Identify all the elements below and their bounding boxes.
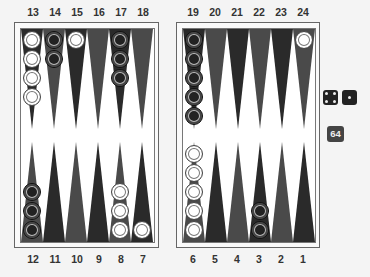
white-checker[interactable] [185, 183, 203, 201]
point-label-24: 24 [292, 6, 314, 18]
checker-stack-13 [21, 31, 43, 107]
white-checker[interactable] [23, 69, 41, 87]
black-checker[interactable] [111, 31, 129, 49]
dice[interactable] [323, 90, 357, 105]
point-label-10: 10 [66, 253, 88, 265]
point-label-4: 4 [226, 253, 248, 265]
white-checker[interactable] [111, 183, 129, 201]
checker-stack-12 [21, 183, 43, 240]
point-18[interactable] [131, 29, 153, 129]
white-checker[interactable] [23, 31, 41, 49]
point-label-18: 18 [132, 6, 154, 18]
point-11[interactable] [43, 142, 65, 242]
point-9[interactable] [87, 142, 109, 242]
point-label-1: 1 [292, 253, 314, 265]
checker-stack-8 [109, 183, 131, 240]
checker-stack-3 [249, 202, 271, 240]
black-checker[interactable] [185, 50, 203, 68]
point-label-13: 13 [22, 6, 44, 18]
checker-stack-6 [183, 145, 205, 240]
die-pip [348, 96, 351, 99]
point-2[interactable] [271, 142, 293, 242]
point-22[interactable] [249, 29, 271, 129]
die-pip [325, 100, 328, 103]
right-playfield [182, 28, 316, 243]
point-21[interactable] [227, 29, 249, 129]
bottom-point-labels: 121110987654321 [0, 253, 370, 267]
point-label-12: 12 [22, 253, 44, 265]
black-checker[interactable] [23, 202, 41, 220]
point-1[interactable] [293, 142, 315, 242]
point-label-15: 15 [66, 6, 88, 18]
checker-stack-24 [293, 31, 315, 50]
white-checker[interactable] [185, 202, 203, 220]
white-checker[interactable] [67, 31, 85, 49]
point-label-17: 17 [110, 6, 132, 18]
left-board-half [14, 22, 159, 248]
die-2 [342, 90, 357, 105]
black-checker[interactable] [23, 221, 41, 239]
point-20[interactable] [205, 29, 227, 129]
black-checker[interactable] [111, 69, 129, 87]
checker-stack-15 [65, 31, 87, 50]
black-checker[interactable] [111, 50, 129, 68]
point-label-16: 16 [88, 6, 110, 18]
point-label-23: 23 [270, 6, 292, 18]
left-playfield [20, 28, 155, 243]
point-label-9: 9 [88, 253, 110, 265]
point-5[interactable] [205, 142, 227, 242]
top-point-labels: 131415161718192021222324 [0, 6, 370, 20]
point-23[interactable] [271, 29, 293, 129]
die-1 [323, 90, 338, 105]
right-board-half [176, 22, 320, 248]
white-checker[interactable] [185, 221, 203, 239]
point-label-21: 21 [226, 6, 248, 18]
black-checker[interactable] [45, 31, 63, 49]
point-label-2: 2 [270, 253, 292, 265]
point-label-14: 14 [44, 6, 66, 18]
white-checker[interactable] [295, 31, 313, 49]
point-label-8: 8 [110, 253, 132, 265]
point-16[interactable] [87, 29, 109, 129]
doubling-cube[interactable]: 64 [327, 126, 344, 142]
black-checker[interactable] [185, 69, 203, 87]
checker-stack-17 [109, 31, 131, 88]
black-checker[interactable] [251, 202, 269, 220]
black-checker[interactable] [45, 50, 63, 68]
checker-stack-14 [43, 31, 65, 69]
point-label-19: 19 [182, 6, 204, 18]
black-checker[interactable] [185, 31, 203, 49]
white-checker[interactable] [23, 50, 41, 68]
die-pip [333, 92, 336, 95]
white-checker[interactable] [111, 221, 129, 239]
point-label-7: 7 [132, 253, 154, 265]
black-checker[interactable] [23, 183, 41, 201]
point-label-3: 3 [248, 253, 270, 265]
white-checker[interactable] [111, 202, 129, 220]
white-checker[interactable] [185, 145, 203, 163]
black-checker[interactable] [251, 221, 269, 239]
die-pip [325, 92, 328, 95]
white-checker[interactable] [133, 221, 151, 239]
checker-stack-19 [183, 31, 205, 126]
die-pip [333, 100, 336, 103]
point-4[interactable] [227, 142, 249, 242]
black-checker[interactable] [185, 88, 203, 106]
white-checker[interactable] [185, 164, 203, 182]
white-checker[interactable] [23, 88, 41, 106]
point-label-22: 22 [248, 6, 270, 18]
point-label-20: 20 [204, 6, 226, 18]
point-label-6: 6 [182, 253, 204, 265]
checker-stack-7 [131, 221, 153, 240]
point-label-5: 5 [204, 253, 226, 265]
point-10[interactable] [65, 142, 87, 242]
point-label-11: 11 [44, 253, 66, 265]
black-checker[interactable] [185, 107, 203, 125]
